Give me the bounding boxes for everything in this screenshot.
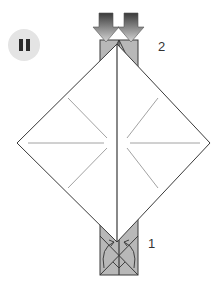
paper-diamond [17,44,210,242]
push-arrow-right [118,13,144,42]
step-label-2: 2 [158,39,165,54]
step-label-1: 1 [148,236,155,251]
push-arrow-left [93,13,119,42]
fold-diagram [0,0,224,285]
